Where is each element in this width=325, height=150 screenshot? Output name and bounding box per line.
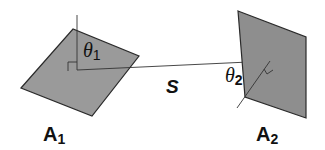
surface-a2 <box>237 11 306 118</box>
distance-s-label: S <box>166 76 179 97</box>
surface-a1-label: A1 <box>43 123 65 147</box>
surface-a2-plate <box>238 11 306 118</box>
surface-a1 <box>21 15 139 116</box>
surface-a1-plate <box>21 29 139 116</box>
radiation-view-factor-diagram: θ1 S θ2 A1 A2 <box>0 0 325 150</box>
theta2-label: θ2 <box>225 64 243 88</box>
surface-a2-label: A2 <box>256 123 278 147</box>
